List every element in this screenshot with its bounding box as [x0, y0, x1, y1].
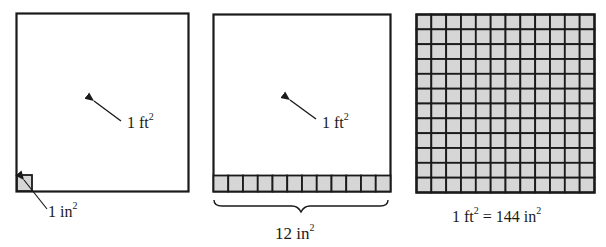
- strip-cell: [346, 176, 361, 192]
- grid-cell: [520, 104, 535, 119]
- grid-cell: [417, 15, 432, 30]
- grid-cell: [535, 104, 550, 119]
- grid-cell: [550, 74, 565, 89]
- grid-cell: [491, 118, 506, 133]
- label-12-in2: 12 in2: [275, 222, 314, 243]
- grid-cell: [417, 104, 432, 119]
- grid-cell: [535, 44, 550, 59]
- grid-cell: [506, 118, 521, 133]
- grid-cell: [476, 59, 491, 74]
- grid-cell: [550, 89, 565, 104]
- grid-cell: [476, 118, 491, 133]
- square-foot-outline: [17, 14, 189, 192]
- grid-cell: [550, 104, 565, 119]
- grid-cell: [520, 15, 535, 30]
- grid-cell: [580, 59, 595, 74]
- grid-cell: [520, 133, 535, 148]
- grid-cell: [580, 104, 595, 119]
- strip-cell: [228, 176, 243, 192]
- grid-cell: [431, 29, 446, 44]
- grid-cell: [491, 178, 506, 193]
- strip-cell: [287, 176, 302, 192]
- grid-cell: [431, 118, 446, 133]
- arrow-to-square-foot-2: [290, 100, 316, 119]
- grid-cell: [565, 178, 580, 193]
- grid-cell: [535, 59, 550, 74]
- grid-cell: [431, 59, 446, 74]
- grid-cell: [580, 133, 595, 148]
- grid-cell: [417, 44, 432, 59]
- grid-cell: [580, 44, 595, 59]
- label-1-ft2: 1 ft2: [127, 111, 154, 131]
- grid-cell: [491, 148, 506, 163]
- grid-cell: [461, 163, 476, 178]
- strip-cell: [317, 176, 332, 192]
- grid-cell: [535, 15, 550, 30]
- grid-cell: [565, 44, 580, 59]
- grid-cell: [431, 104, 446, 119]
- grid-cell: [446, 74, 461, 89]
- grid-cell: [446, 104, 461, 119]
- grid-cell: [417, 178, 432, 193]
- grid-cell: [565, 29, 580, 44]
- strip-cell: [243, 176, 258, 192]
- grid-cell: [476, 163, 491, 178]
- grid-cell: [580, 29, 595, 44]
- grid-cell: [565, 118, 580, 133]
- inch-strip-row: [214, 176, 391, 192]
- grid-cell: [431, 44, 446, 59]
- grid-cell: [431, 15, 446, 30]
- grid-cell: [461, 178, 476, 193]
- grid-cell: [461, 133, 476, 148]
- grid-cell: [565, 15, 580, 30]
- grid-cell: [446, 178, 461, 193]
- grid-cell: [580, 89, 595, 104]
- panel-two-inch-strip: 1 ft2 12 in2: [214, 15, 391, 244]
- grid-cell: [491, 133, 506, 148]
- grid-cell: [417, 133, 432, 148]
- strip-cell: [332, 176, 347, 192]
- grid-cell: [476, 44, 491, 59]
- grid-cell: [417, 163, 432, 178]
- grid-cell: [446, 15, 461, 30]
- strip-cell: [302, 176, 317, 192]
- label-equation: 1 ft2 = 144 in2: [452, 205, 541, 225]
- grid-cell: [446, 89, 461, 104]
- grid-cell: [565, 59, 580, 74]
- grid-cell: [550, 163, 565, 178]
- grid-cell: [476, 178, 491, 193]
- grid-cell: [535, 29, 550, 44]
- grid-cell: [491, 44, 506, 59]
- grid-cell: [417, 148, 432, 163]
- grid-cell: [431, 74, 446, 89]
- grid-cell: [520, 29, 535, 44]
- grid-cell: [580, 163, 595, 178]
- grid-cell: [446, 29, 461, 44]
- grid-cell: [446, 133, 461, 148]
- grid-cell: [476, 15, 491, 30]
- grid-cell: [476, 148, 491, 163]
- grid-cell: [461, 118, 476, 133]
- grid-cell: [535, 148, 550, 163]
- inch-grid-12x12: [417, 15, 595, 193]
- grid-cell: [491, 104, 506, 119]
- grid-cell: [565, 89, 580, 104]
- curly-brace: [214, 200, 388, 212]
- grid-cell: [506, 29, 521, 44]
- grid-cell: [580, 178, 595, 193]
- grid-cell: [565, 133, 580, 148]
- grid-cell: [431, 178, 446, 193]
- grid-cell: [417, 74, 432, 89]
- grid-cell: [580, 148, 595, 163]
- grid-cell: [491, 29, 506, 44]
- grid-cell: [491, 74, 506, 89]
- grid-cell: [491, 89, 506, 104]
- grid-cell: [535, 89, 550, 104]
- grid-cell: [550, 148, 565, 163]
- grid-cell: [506, 44, 521, 59]
- grid-cell: [491, 59, 506, 74]
- grid-cell: [580, 74, 595, 89]
- label-1-ft2-panel2: 1 ft2: [322, 111, 349, 131]
- grid-cell: [535, 118, 550, 133]
- strip-cell: [361, 176, 376, 192]
